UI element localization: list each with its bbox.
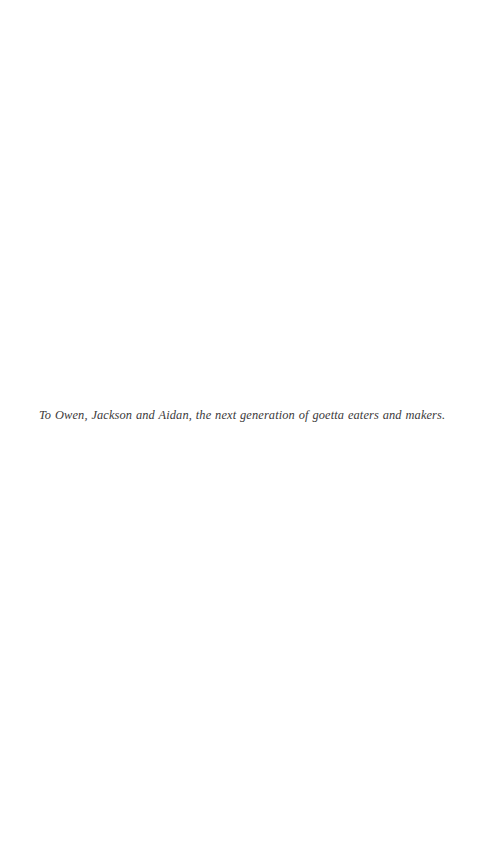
- dedication-page: To Owen, Jackson and Aidan, the next gen…: [0, 0, 482, 858]
- dedication-text: To Owen, Jackson and Aidan, the next gen…: [39, 407, 445, 423]
- dedication-block: To Owen, Jackson and Aidan, the next gen…: [39, 403, 447, 427]
